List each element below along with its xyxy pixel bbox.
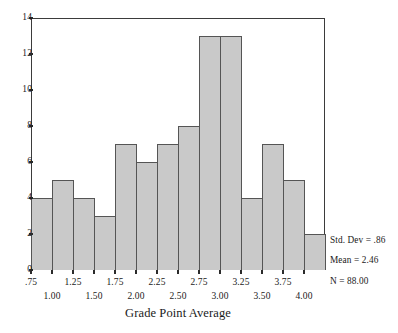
x-axis-tick-label: 2.25 [137, 278, 177, 288]
x-axis-tick-label: 2.50 [158, 292, 198, 302]
std-dev-label: Std. Dev = .86 [330, 236, 398, 245]
x-axis-tick-mark [93, 270, 96, 274]
x-axis-tick-mark [198, 270, 201, 274]
x-axis-tick-mark [240, 270, 243, 274]
x-axis-tick-label: .75 [11, 278, 51, 288]
mean-label: Mean = 2.46 [330, 256, 398, 265]
x-axis-tick-mark [303, 270, 306, 274]
x-axis-tick-label: 3.00 [200, 292, 240, 302]
x-axis-tick-label: 1.00 [32, 292, 72, 302]
x-axis-tick-label: 3.50 [242, 292, 282, 302]
x-axis-tick-mark [30, 270, 33, 274]
x-axis-tick-label: 3.25 [221, 278, 261, 288]
x-axis-tick-label: 1.75 [95, 278, 135, 288]
x-axis-tick-mark [156, 270, 159, 274]
x-axis-tick-mark [114, 270, 117, 274]
x-axis-tick-mark [219, 270, 222, 274]
x-axis-tick-mark [72, 270, 75, 274]
x-axis-tick-label: 1.25 [53, 278, 93, 288]
x-axis-tick-mark [51, 270, 54, 274]
x-axis-tick-label: 2.75 [179, 278, 219, 288]
x-axis-tick-label: 2.00 [116, 292, 156, 302]
x-axis-tick-label: 4.00 [284, 292, 324, 302]
x-axis-tick-mark [177, 270, 180, 274]
x-axis-tick-mark [282, 270, 285, 274]
x-axis-tick-mark [261, 270, 264, 274]
statistics-annotation: Std. Dev = .86 Mean = 2.46 N = 88.00 [330, 236, 398, 297]
x-axis-tick-mark [135, 270, 138, 274]
x-axis-tick-label: 1.50 [74, 292, 114, 302]
histogram-figure: 02468101214 .751.001.251.501.752.002.252… [0, 0, 398, 333]
x-axis-tick-label: 3.75 [263, 278, 303, 288]
x-axis-title: Grade Point Average [31, 306, 325, 320]
n-label: N = 88.00 [330, 277, 398, 286]
